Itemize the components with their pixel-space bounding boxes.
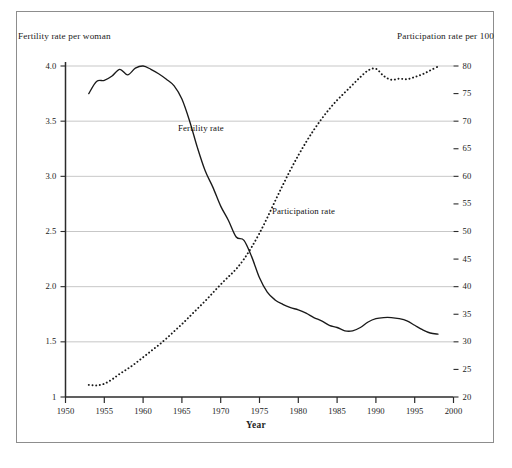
y-tick-label-right-4: 40 <box>463 281 503 291</box>
figure-container: Fertility rate per woman Participation r… <box>0 0 512 468</box>
x-tick-label-10: 2000 <box>431 406 477 416</box>
y-tick-label-right-7: 55 <box>463 198 503 208</box>
y-tick-label-right-12: 80 <box>463 61 503 71</box>
y-tick-label-right-11: 75 <box>463 88 503 98</box>
y-tick-label-right-10: 70 <box>463 116 503 126</box>
y-tick-label-right-3: 35 <box>463 309 503 319</box>
y-tick-label-left-2: 2.0 <box>17 281 57 291</box>
y-tick-label-right-6: 50 <box>463 226 503 236</box>
series-line-1 <box>89 67 438 386</box>
y-tick-label-right-2: 30 <box>463 336 503 346</box>
y-tick-label-left-6: 4.0 <box>17 61 57 71</box>
chart-canvas <box>0 0 512 468</box>
y-tick-label-left-0: 1 <box>17 392 57 402</box>
x-axis-title: Year <box>0 420 512 430</box>
fertility-series-annotation: Fertility rate <box>178 123 224 133</box>
y-tick-label-right-8: 60 <box>463 171 503 181</box>
y-tick-label-left-5: 3.5 <box>17 116 57 126</box>
y-tick-label-left-4: 3.0 <box>17 171 57 181</box>
y-tick-label-right-9: 65 <box>463 143 503 153</box>
participation-series-annotation: Participation rate <box>272 206 335 216</box>
y-tick-label-left-3: 2.5 <box>17 226 57 236</box>
y-tick-label-left-1: 1.5 <box>17 336 57 346</box>
y-tick-label-right-1: 25 <box>463 364 503 374</box>
y-tick-label-right-5: 45 <box>463 254 503 264</box>
series-line-0 <box>89 66 438 334</box>
y-tick-label-right-0: 20 <box>463 392 503 402</box>
